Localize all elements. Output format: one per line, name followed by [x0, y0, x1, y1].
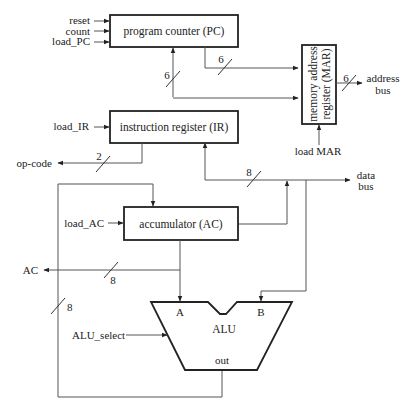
address-bus-label-line1: address [367, 72, 400, 84]
pc-inputs: reset count load_PC [52, 14, 109, 47]
op-code-output: 2 op-code [17, 143, 142, 172]
ac-out-width: 8 [110, 274, 116, 286]
instruction-register-label: instruction register (IR) [120, 121, 229, 134]
alu-label: ALU [212, 323, 236, 335]
alu-port-b: B [257, 306, 264, 318]
pc-to-mar-bus: 6 [205, 47, 298, 75]
instruction-register-block: instruction register (IR) [110, 111, 238, 143]
data-bus: 8 data bus [205, 143, 375, 192]
load-mar-label: load MAR [295, 145, 342, 157]
feedback-width: 8 [67, 301, 73, 313]
op-code-width: 2 [96, 150, 102, 162]
alu-port-a: A [176, 306, 184, 318]
ac-output: 8 AC [23, 240, 180, 301]
cpu-block-diagram: program counter (PC) reset count load_PC… [0, 0, 406, 411]
accumulator-label: accumulator (AC) [139, 218, 223, 231]
ir-to-pc-bus: 6 [164, 48, 298, 98]
ac-to-data-bus [238, 181, 287, 224]
load-ac-input: load_AC [64, 217, 123, 229]
op-code-label: op-code [17, 157, 53, 169]
address-bus-width: 6 [343, 72, 349, 84]
address-bus: 6 address bus [336, 72, 400, 96]
mar-label-line2: register (MAR) [320, 48, 333, 119]
alu-select-label: ALU_select [72, 329, 125, 341]
ac-out-label: AC [23, 264, 38, 276]
data-bus-to-alu-b [261, 180, 306, 301]
alu-block: A B ALU out [151, 302, 292, 370]
ir-to-pc-width: 6 [164, 69, 170, 81]
load-mar-input: load MAR [295, 125, 342, 157]
load-pc-label: load_PC [52, 35, 90, 47]
data-bus-width: 8 [246, 166, 252, 178]
load-ac-label: load_AC [64, 217, 104, 229]
accumulator-block: accumulator (AC) [124, 207, 238, 240]
alu-port-out: out [215, 354, 229, 366]
program-counter-block: program counter (PC) [110, 15, 238, 47]
program-counter-label: program counter (PC) [124, 25, 225, 38]
mar-block: memory address register (MAR) [302, 45, 336, 124]
load-ir-label: load_IR [54, 120, 90, 132]
load-ir-input: load_IR [54, 120, 109, 132]
pc-to-mar-width: 6 [218, 53, 224, 65]
data-bus-label-line2: bus [358, 180, 373, 192]
alu-select-input: ALU_select [72, 329, 167, 341]
address-bus-label-line2: bus [375, 84, 390, 96]
mar-label-line1: memory address [307, 46, 320, 122]
